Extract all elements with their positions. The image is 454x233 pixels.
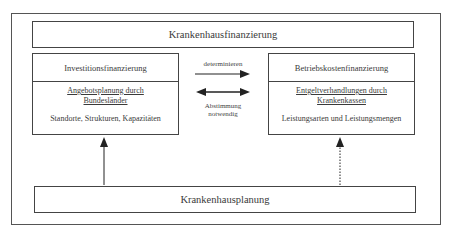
arrow-planung-to-betriebskosten-dotted [336,137,344,185]
arrow-abstimmung-bidirectional [196,88,250,96]
arrow-planung-to-investition [100,137,108,185]
edges-layer [0,0,454,233]
arrow-determinieren [195,70,250,78]
